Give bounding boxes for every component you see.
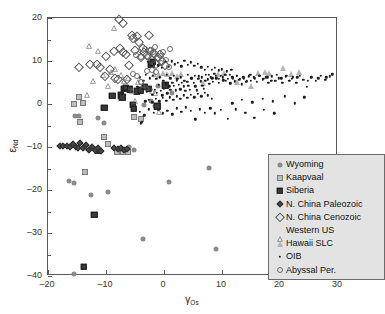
data-point <box>251 101 253 103</box>
data-point <box>183 60 185 62</box>
data-point <box>171 81 173 83</box>
data-point <box>214 112 216 114</box>
data-point <box>159 90 161 92</box>
y-axis-title-base: ε <box>7 148 18 152</box>
data-point <box>165 99 167 101</box>
data-point <box>160 49 166 55</box>
y-tick-label: 20 <box>18 12 42 22</box>
data-point <box>174 89 176 91</box>
legend-item: Wyoming <box>273 158 384 171</box>
data-point <box>267 81 269 83</box>
data-point <box>167 179 172 184</box>
triangle-gray-icon <box>273 237 286 250</box>
data-point <box>227 78 229 80</box>
data-point <box>119 94 126 101</box>
y-tick-label: 0 <box>18 98 42 108</box>
y-tick <box>48 147 52 148</box>
data-point <box>310 76 312 78</box>
y-tick-label: –40 <box>18 270 42 280</box>
data-point <box>207 66 209 68</box>
legend-item: Kaapvaal <box>273 171 384 184</box>
data-point <box>231 102 233 104</box>
data-point <box>209 107 211 109</box>
data-point <box>153 69 159 75</box>
data-point <box>172 98 174 100</box>
square-dark-icon <box>273 184 286 197</box>
data-point <box>194 74 196 76</box>
data-point <box>207 94 209 96</box>
data-point <box>180 111 182 113</box>
x-axis-title-subscript: Os <box>190 299 198 306</box>
data-point <box>111 17 117 23</box>
x-tick-label: 0 <box>160 279 165 289</box>
data-point <box>152 44 158 50</box>
data-point <box>184 90 186 92</box>
x-tick-label: 30 <box>332 279 342 289</box>
data-point <box>177 84 179 86</box>
data-point <box>203 88 205 90</box>
legend-label: N. China Paleozoic <box>286 200 363 209</box>
y-tick <box>48 61 52 62</box>
data-point <box>148 108 150 110</box>
circle-open-icon <box>273 264 286 277</box>
y-tick <box>48 18 52 19</box>
data-point <box>142 103 147 108</box>
data-point <box>248 83 254 89</box>
data-point <box>235 108 237 110</box>
y-minor-tick <box>48 255 51 256</box>
data-point <box>189 93 191 95</box>
data-point <box>145 54 151 60</box>
data-point <box>176 107 178 109</box>
triangle-open-icon <box>273 224 286 237</box>
data-point <box>101 105 108 112</box>
data-point <box>170 90 175 95</box>
data-point <box>192 81 194 83</box>
data-point <box>283 95 285 97</box>
data-point <box>196 62 198 64</box>
legend-item: Western US <box>273 224 384 237</box>
data-point <box>199 108 201 110</box>
legend-label: Abyssal Per. <box>286 266 336 275</box>
legend-item: Hawaii SLC <box>273 237 384 250</box>
data-point <box>241 98 243 100</box>
data-point <box>288 80 290 82</box>
legend-item: Siberia <box>273 184 384 197</box>
data-point <box>173 85 175 87</box>
legend-label: Hawaii SLC <box>286 239 333 248</box>
data-point <box>193 65 195 67</box>
data-point <box>329 75 331 77</box>
data-point <box>179 88 181 90</box>
data-point <box>152 111 154 113</box>
data-point <box>180 65 182 67</box>
data-point <box>158 60 164 66</box>
data-point <box>186 80 188 82</box>
legend: WyomingKaapvaalSiberiaN. China Paleozoic… <box>268 154 385 280</box>
y-tick <box>48 190 52 191</box>
data-point <box>208 83 210 85</box>
data-point <box>302 79 304 81</box>
data-point <box>247 75 249 77</box>
legend-marker <box>277 241 283 247</box>
data-point <box>270 80 272 82</box>
diamond-dark-icon <box>273 198 286 211</box>
legend-marker <box>276 188 283 195</box>
data-point <box>261 98 263 100</box>
data-point <box>101 51 110 60</box>
legend-marker <box>277 267 283 273</box>
diamond-open-icon <box>273 211 286 224</box>
data-point <box>275 74 277 76</box>
data-point <box>280 65 286 71</box>
data-point <box>131 105 138 112</box>
x-tick-label: –10 <box>97 279 112 289</box>
data-point <box>211 77 213 79</box>
legend-marker <box>278 256 280 258</box>
legend-marker <box>277 162 282 167</box>
data-point <box>77 119 83 125</box>
data-point <box>230 68 232 70</box>
data-point <box>131 114 137 120</box>
y-tick-label: –20 <box>18 184 42 194</box>
square-lightgray-icon <box>273 171 286 184</box>
data-point <box>249 74 251 76</box>
data-point <box>134 73 140 79</box>
data-point <box>266 76 268 78</box>
